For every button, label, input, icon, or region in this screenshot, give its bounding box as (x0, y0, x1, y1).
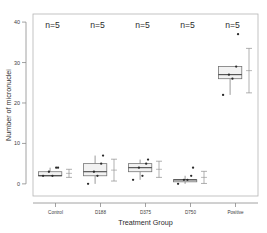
data-point (42, 175, 44, 177)
boxplot-figure: 010203040Number of micronucleiControlD18… (0, 0, 267, 233)
data-point (235, 65, 237, 67)
y-axis-tick-label-20: 20 (14, 100, 20, 106)
data-point (145, 162, 147, 164)
boxplot-svg: 010203040Number of micronucleiControlD18… (0, 0, 267, 233)
x-axis-title: Treatment Group (118, 218, 172, 227)
x-axis-tick-label-d375: D375 (140, 210, 151, 215)
data-point (93, 171, 95, 173)
box-rect (218, 67, 241, 79)
data-point (102, 154, 104, 156)
data-point (186, 179, 188, 181)
y-axis-tick-label-30: 30 (14, 60, 20, 66)
x-axis-tick-label-d188: D188 (95, 210, 106, 215)
y-axis-title: Number of micronuclei (4, 69, 13, 141)
box-rect (83, 164, 106, 176)
data-point (141, 175, 143, 177)
data-point (222, 94, 224, 96)
data-point (177, 183, 179, 185)
data-point (190, 175, 192, 177)
data-point (147, 158, 149, 160)
annotation-n-control: n=5 (45, 20, 60, 30)
x-axis-tick-label-d750: D750 (185, 210, 196, 215)
y-axis-tick-label-40: 40 (14, 19, 20, 25)
data-point (228, 74, 230, 76)
annotation-n-d188: n=5 (90, 20, 105, 30)
data-point (132, 179, 134, 181)
x-axis-tick-label-control: Control (48, 210, 63, 215)
annotation-n-d750: n=5 (180, 20, 195, 30)
annotation-n-positive: n=5 (225, 20, 240, 30)
annotation-n-d375: n=5 (135, 20, 150, 30)
data-point (138, 167, 140, 169)
data-point (51, 175, 53, 177)
y-axis-tick-label-0: 0 (17, 181, 20, 187)
data-point (57, 167, 59, 169)
box-rect (38, 172, 61, 176)
data-point (183, 179, 185, 181)
data-point (231, 78, 233, 80)
data-point (100, 162, 102, 164)
data-point (237, 33, 239, 35)
x-axis-tick-label-positive: Positive (227, 210, 244, 215)
data-point (87, 183, 89, 185)
data-point (96, 175, 98, 177)
y-axis-tick-label-10: 10 (14, 140, 20, 146)
data-point (48, 171, 50, 173)
data-point (192, 167, 194, 169)
